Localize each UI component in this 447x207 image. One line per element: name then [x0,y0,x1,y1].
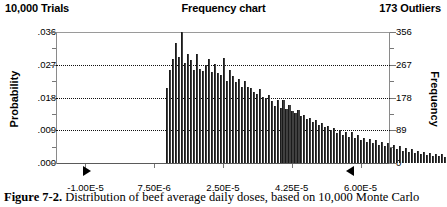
histogram-bar [390,148,392,163]
y-tick-mark [390,98,396,99]
plot-area [56,32,390,164]
histogram-bar [399,146,401,163]
histogram-bar [414,153,416,163]
y-tick-mark-minor [390,48,394,49]
histogram-bar [223,58,225,163]
histogram-bar [226,81,228,163]
histogram-bar [235,82,237,163]
histogram-bar [354,138,356,163]
figure-caption-label: Figure 7-2. [4,190,62,204]
histogram-bar [312,122,314,163]
y-axis-title-probability: Probability [8,54,20,144]
histogram-bar [238,79,240,163]
histogram-bar [193,70,195,163]
histogram-bar [438,156,440,163]
histogram-bar [190,60,192,163]
histogram-bars [56,32,390,163]
y-tick-label-right: 356 [396,27,412,37]
histogram-bar [315,120,317,163]
histogram-bar [366,142,368,163]
histogram-bar [429,153,431,163]
y-tick-mark [50,163,56,164]
figure-caption-text: Distribution of beef average daily doses… [65,190,419,204]
histogram-bar [202,71,204,163]
histogram-bar [196,54,198,163]
histogram-bar [184,63,186,163]
y-tick-label-right: 89 [396,125,407,135]
histogram-bar [309,118,311,163]
histogram-bar [274,106,276,163]
histogram-bar [181,32,183,163]
histogram-bar [303,115,305,163]
histogram-bar [175,43,177,163]
histogram-bar [444,157,446,163]
lower-bound-marker[interactable] [83,166,91,176]
figure-caption: Figure 7-2. Distribution of beef average… [4,190,443,205]
y-tick-mark-minor [390,114,394,115]
histogram-bar [208,59,210,163]
histogram-bar [372,143,374,163]
histogram-bar [280,108,282,163]
histogram-bar [324,127,326,163]
histogram-bar [259,89,261,163]
histogram-bar [411,149,413,163]
histogram-bar [402,151,404,163]
histogram-bar [294,113,296,163]
histogram-bar [441,154,443,163]
histogram-bar [339,130,341,163]
histogram-bar [330,130,332,163]
y-tick-mark [390,163,396,164]
x-tick-mark [292,164,293,168]
histogram-bar [166,88,168,163]
histogram-bar [345,132,347,163]
histogram-bar [277,100,279,163]
y-axis-title-frequency: Frequency [429,54,441,144]
y-tick-mark [390,32,396,33]
y-tick-label-right: 267 [396,60,412,70]
histogram-bar [351,132,353,163]
histogram-bar [288,105,290,163]
histogram-bar [268,95,270,163]
upper-bound-marker[interactable] [346,166,354,176]
histogram-bar [253,92,255,163]
histogram-bar [435,154,437,163]
histogram-bar [333,128,335,163]
y-tick-label-right: 178 [396,93,412,103]
histogram-bar [408,152,410,163]
y-tick-mark [390,130,396,131]
histogram-bar [172,59,174,163]
histogram-bar [420,154,422,163]
histogram-bar [432,156,434,163]
x-tick-mark [154,164,155,168]
histogram-bar [336,133,338,163]
histogram-bar [282,100,284,163]
histogram-bar [384,146,386,163]
histogram-bar [205,65,207,163]
histogram-bar [217,73,219,163]
histogram-bar [241,87,243,163]
histogram-bar [169,70,171,163]
histogram-bar [265,98,267,163]
histogram-bar [369,139,371,163]
histogram-bar [211,72,213,163]
histogram-bar [381,142,383,163]
histogram-bar [232,76,234,163]
y-tick-mark [390,65,396,66]
histogram-bar [214,64,216,163]
frequency-chart-figure: 10,000 Trials Frequency chart 173 Outlie… [0,0,447,207]
histogram-bar [363,138,365,163]
histogram-bar [178,57,180,163]
histogram-bar [271,101,273,163]
histogram-bar [244,81,246,163]
histogram-bar [321,123,323,163]
histogram-bar [378,145,380,163]
histogram-bar [327,126,329,163]
histogram-bar [247,87,249,163]
histogram-bar [199,69,201,163]
histogram-bar [256,94,258,163]
histogram-bar [417,151,419,163]
x-tick-mark [361,164,362,168]
histogram-bar [396,149,398,163]
histogram-bar [187,54,189,163]
histogram-bar [387,143,389,163]
